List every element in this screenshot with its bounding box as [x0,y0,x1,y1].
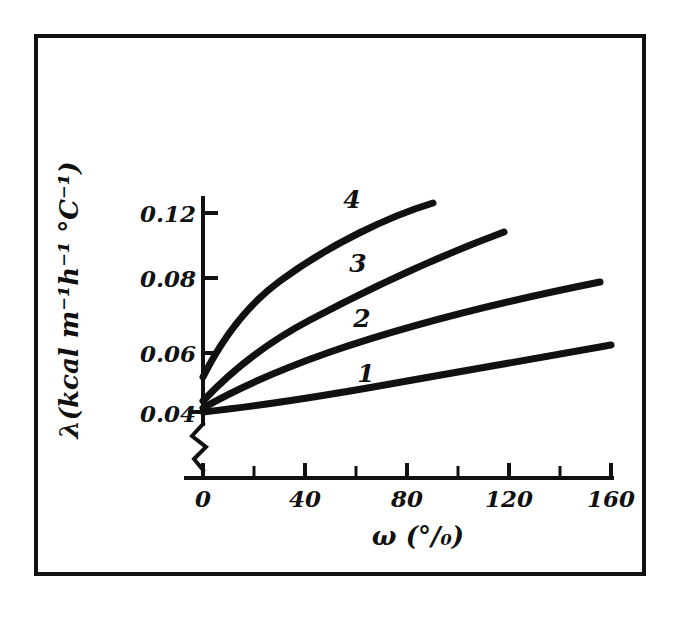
data-curves-group [203,203,611,412]
curve-label-3: 3 [349,249,366,278]
x-axis-group: 0 40 80 120 160 [186,463,635,512]
y-tick-label-1: 0.08 [140,265,196,292]
x-tick-label-40: 40 [289,485,321,512]
figure-root: 0.12 0.08 0.06 0.04 0 40 80 120 160 ω (°… [0,0,681,622]
curve-label-2: 2 [352,304,370,333]
y-tick-label-2: 0.06 [140,340,196,367]
y-axis-group: 0.12 0.08 0.06 0.04 [140,198,218,470]
curve-label-4: 4 [343,185,360,214]
y-tick-label-0: 0.12 [140,200,196,227]
x-tick-label-120: 120 [485,485,533,512]
x-axis-title: ω (°/₀) [372,521,464,551]
y-tick-label-3: 0.04 [140,400,196,427]
chart-canvas: 0.12 0.08 0.06 0.04 0 40 80 120 160 ω (°… [0,0,681,622]
y-axis-title: λ(kcal m⁻¹h⁻¹ °C⁻¹) [54,162,84,440]
x-tick-label-80: 80 [390,485,423,512]
x-tick-label-160: 160 [587,485,635,512]
curve-4 [203,203,433,377]
x-tick-label-0: 0 [195,485,211,512]
curve-label-1: 1 [357,359,374,388]
